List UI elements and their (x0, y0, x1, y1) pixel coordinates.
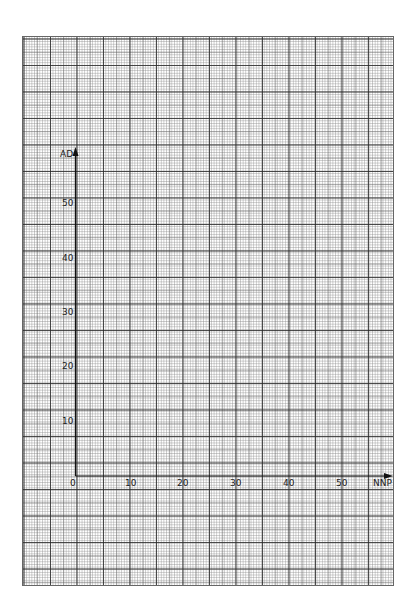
y-axis-arrow-icon (73, 147, 79, 156)
x-tick-label: 10 (125, 478, 137, 488)
x-axis-label: NNP (373, 478, 392, 488)
y-tick-label: 20 (62, 361, 74, 371)
x-tick-label: 40 (283, 478, 295, 488)
origin-label: 0 (70, 478, 76, 488)
y-axis-label: AD (60, 149, 73, 159)
y-tick-label: 30 (62, 307, 74, 317)
y-tick-label: 10 (62, 416, 74, 426)
x-tick-label: 20 (177, 478, 189, 488)
y-tick-label: 50 (62, 198, 74, 208)
x-tick-label: 50 (336, 478, 348, 488)
x-tick-label: 30 (230, 478, 242, 488)
chart-axes: AD NNP 0 10 20 30 40 50 10 20 30 40 50 (0, 0, 412, 616)
y-tick-label: 40 (62, 253, 74, 263)
